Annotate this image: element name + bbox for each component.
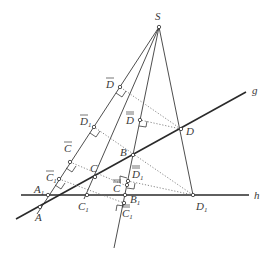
point-c1bar — [57, 177, 60, 180]
point-d1 — [191, 193, 194, 196]
point-a — [38, 205, 41, 208]
label-cbar: C — [64, 142, 72, 154]
point-cdbar — [125, 183, 128, 186]
point-c1dbar — [122, 201, 125, 204]
point-d — [179, 127, 182, 130]
label-c1bar: C1 — [46, 171, 57, 185]
point-c1 — [85, 193, 88, 196]
label-dbar: D — [105, 78, 114, 90]
label-cdbar: C — [113, 182, 121, 194]
point-a1 — [46, 193, 49, 196]
point-b — [131, 153, 134, 156]
right-angle-marker — [90, 131, 100, 137]
point-d1dbar — [126, 179, 129, 182]
right-angle-marker — [120, 176, 127, 183]
label-d: D — [185, 125, 194, 137]
ray-s-d1 — [159, 27, 193, 195]
label-d1dbar: D1 — [131, 168, 143, 182]
dotted-d1-d1bar — [94, 127, 193, 195]
label-c: C — [90, 162, 98, 174]
label-a: A — [34, 211, 42, 223]
point-dbar — [118, 85, 121, 88]
point-cbar — [68, 160, 71, 163]
ray-s-b1 — [114, 27, 159, 248]
label-a1: A1 — [33, 183, 44, 197]
point-b1 — [123, 193, 126, 196]
label-b: B — [120, 146, 127, 158]
point-c — [93, 175, 96, 178]
label-line-g: g — [252, 84, 258, 96]
point-s — [157, 25, 160, 28]
label-line-h: h — [254, 189, 260, 201]
label-d1bar: D1 — [79, 115, 91, 129]
projection-diagram: SAA1BB1CC1DD1CC1DD1CC1DD1gh — [0, 0, 274, 261]
label-d1: D1 — [195, 200, 207, 214]
point-d1bar — [92, 125, 95, 128]
point-ddbar — [138, 118, 141, 121]
label-s: S — [155, 10, 161, 22]
label-c1: C1 — [78, 200, 89, 214]
label-c1dbar: C1 — [122, 207, 133, 221]
label-ddbar: D — [125, 114, 134, 126]
right-angle-marker — [116, 91, 126, 97]
